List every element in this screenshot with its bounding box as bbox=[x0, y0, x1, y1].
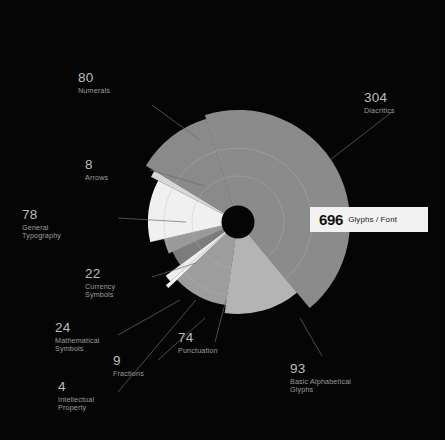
label-general-typography-caption: GeneralTypography bbox=[22, 224, 61, 241]
label-diacritics-value: 304 bbox=[364, 90, 395, 106]
label-fractions-value: 9 bbox=[113, 353, 144, 369]
chart-center-hole bbox=[222, 206, 255, 239]
label-punctuation: 74 Punctuation bbox=[178, 330, 218, 355]
label-mathematical-symbols-value: 24 bbox=[55, 320, 100, 336]
label-numerals: 80 Numerals bbox=[78, 70, 110, 95]
label-basic-alphabetical-value: 93 bbox=[290, 361, 351, 377]
label-currency-symbols-value: 22 bbox=[85, 266, 115, 282]
label-intellectual-property-caption: IntellectualProperty bbox=[58, 396, 94, 413]
label-mathematical-symbols: 24 MathematicalSymbols bbox=[55, 320, 100, 354]
label-currency-symbols-caption: CurrencySymbols bbox=[85, 283, 115, 300]
label-basic-alphabetical: 93 Basic AlphabeticalGlyphs bbox=[290, 361, 351, 395]
leader-line bbox=[330, 112, 392, 160]
label-fractions-caption: Fractions bbox=[113, 370, 144, 378]
total-glyphs-value: 696 bbox=[319, 211, 343, 228]
label-fractions: 9 Fractions bbox=[113, 353, 144, 378]
label-arrows: 8 Arrows bbox=[85, 157, 108, 182]
label-basic-alphabetical-caption: Basic AlphabeticalGlyphs bbox=[290, 378, 351, 395]
label-currency-symbols: 22 CurrencySymbols bbox=[85, 266, 115, 300]
infographic-canvas: 80 Numerals 304 Diacritics 8 Arrows 78 G… bbox=[0, 0, 445, 440]
label-general-typography-value: 78 bbox=[22, 207, 61, 223]
label-diacritics-caption: Diacritics bbox=[364, 107, 395, 115]
label-arrows-value: 8 bbox=[85, 157, 108, 173]
label-general-typography: 78 GeneralTypography bbox=[22, 207, 61, 241]
total-glyphs-callout: 696 Glyphs / Font bbox=[310, 207, 428, 232]
label-diacritics: 304 Diacritics bbox=[364, 90, 395, 115]
label-punctuation-value: 74 bbox=[178, 330, 218, 346]
label-mathematical-symbols-caption: MathematicalSymbols bbox=[55, 337, 100, 354]
label-intellectual-property: 4 IntellectualProperty bbox=[58, 379, 94, 413]
total-glyphs-unit: Glyphs / Font bbox=[348, 215, 397, 224]
label-arrows-caption: Arrows bbox=[85, 174, 108, 182]
label-numerals-value: 80 bbox=[78, 70, 110, 86]
label-numerals-caption: Numerals bbox=[78, 87, 110, 95]
label-intellectual-property-value: 4 bbox=[58, 379, 94, 395]
leader-line bbox=[300, 318, 322, 356]
label-punctuation-caption: Punctuation bbox=[178, 347, 218, 355]
